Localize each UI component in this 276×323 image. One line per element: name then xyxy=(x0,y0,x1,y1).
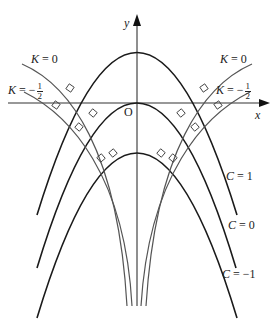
x-axis-label: x xyxy=(255,109,260,121)
x-axis-arrowhead xyxy=(259,99,270,107)
origin-label: O xyxy=(124,106,133,118)
orthogonal-trajectories-diagram: y x O K = 0 K = −12 K = 0 K = −12 C = 1 … xyxy=(0,0,276,323)
label-k-minus-half-left: K = −12 xyxy=(8,82,43,101)
label-k-0-right: K = 0 xyxy=(220,53,247,65)
label-c-minus-1: C = −1 xyxy=(222,268,256,280)
fraction-one-half: 12 xyxy=(37,82,44,101)
label-c-1: C = 1 xyxy=(226,170,253,182)
y-axis-label: y xyxy=(124,17,129,29)
label-k-0-left: K = 0 xyxy=(31,53,58,65)
label-c-0: C = 0 xyxy=(228,219,255,231)
fraction-one-half: 12 xyxy=(245,82,252,101)
y-axis-arrowhead xyxy=(133,14,141,26)
label-k-minus-half-right: K = −12 xyxy=(216,82,251,101)
